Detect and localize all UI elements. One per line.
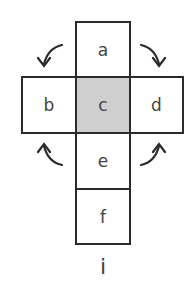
fold-arrows	[0, 0, 188, 288]
fold-arrow-icon-top-right	[141, 45, 165, 66]
fold-arrow-icon-bottom-left	[38, 144, 62, 165]
fold-arrow-icon-top-left	[38, 45, 62, 66]
diagram-caption: i	[9, 254, 188, 279]
fold-arrow-icon-bottom-right	[141, 144, 165, 165]
